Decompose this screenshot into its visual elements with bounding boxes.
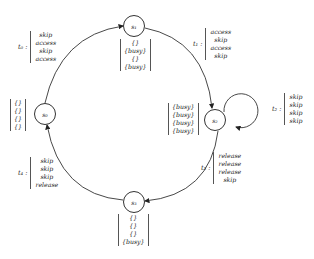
stack-entry: {busy}	[122, 238, 145, 246]
transition-label-t2: t₂ : skip skip skip skip	[272, 93, 302, 125]
action: skip	[289, 101, 302, 109]
stack-entry: {}	[122, 222, 145, 230]
stack-entry: {busy}	[172, 111, 195, 119]
action: release	[218, 152, 241, 160]
action: release	[35, 181, 58, 189]
stack-s3: {} {} {} {busy}	[118, 214, 149, 246]
action: skip	[35, 47, 56, 55]
action: access	[210, 44, 231, 52]
action: skip	[210, 36, 231, 44]
action-list: skip skip skip release	[30, 157, 58, 189]
action: skip	[35, 173, 58, 181]
stack-entry: {}	[14, 107, 22, 115]
stack-entry: {}	[124, 55, 147, 63]
state-label: s₀	[42, 111, 47, 118]
edge-t0	[45, 26, 123, 103]
transition-name: t₀ :	[18, 43, 27, 51]
transition-label-t1: t₁ : access skip access skip	[193, 28, 231, 60]
stack-s2: {busy} {busy} {busy} {busy}	[168, 103, 199, 135]
action-list: access skip access skip	[205, 28, 231, 60]
state-label: s₁	[131, 23, 136, 30]
action-list: release release release skip	[213, 152, 241, 184]
action: release	[218, 168, 241, 176]
stack-entry: {busy}	[124, 47, 147, 55]
edge-t2-self-loop	[224, 94, 258, 128]
action: release	[218, 160, 241, 168]
action: skip	[218, 176, 241, 184]
state-s1: s₁	[123, 15, 145, 37]
action-list: skip access skip access	[30, 31, 56, 63]
edge-t4	[47, 125, 123, 200]
action: skip	[35, 165, 58, 173]
action: skip	[289, 109, 302, 117]
transition-label-t0: t₀ : skip access skip access	[18, 31, 56, 63]
stack-s1: {} {busy} {} {busy}	[120, 39, 151, 71]
transition-name: t₂ :	[272, 105, 281, 113]
action-list: skip skip skip skip	[284, 93, 302, 125]
state-s0: s₀	[34, 103, 56, 125]
state-s2: s₂	[204, 109, 226, 131]
action: skip	[35, 31, 56, 39]
transition-name: t₃ :	[201, 164, 210, 172]
state-label: s₂	[212, 117, 217, 124]
transition-label-t3: t₃ : release release release skip	[201, 152, 241, 184]
stack-entry: {}	[14, 99, 22, 107]
action: skip	[35, 157, 58, 165]
stack-entry: {}	[122, 214, 145, 222]
transition-name: t₄ :	[18, 169, 27, 177]
stack-s0: {} {} {} {}	[10, 99, 26, 131]
action: access	[35, 55, 56, 63]
transition-name: t₁ :	[193, 40, 202, 48]
state-s3: s₃	[123, 191, 145, 213]
action: access	[35, 39, 56, 47]
stack-entry: {busy}	[172, 119, 195, 127]
stack-entry: {}	[122, 230, 145, 238]
stack-entry: {}	[14, 115, 22, 123]
stack-entry: {busy}	[172, 103, 195, 111]
action: skip	[289, 117, 302, 125]
stack-entry: {}	[14, 123, 22, 131]
stack-entry: {busy}	[172, 127, 195, 135]
stack-entry: {busy}	[124, 63, 147, 71]
action: skip	[289, 93, 302, 101]
stack-entry: {}	[124, 39, 147, 47]
state-label: s₃	[131, 199, 136, 206]
action: access	[210, 28, 231, 36]
action: skip	[210, 52, 231, 60]
transition-label-t4: t₄ : skip skip skip release	[18, 157, 58, 189]
